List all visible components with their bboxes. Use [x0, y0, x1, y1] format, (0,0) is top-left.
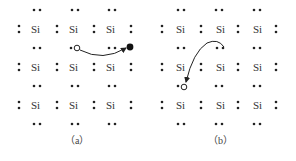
si-atom: Si	[31, 99, 40, 111]
si-atom: Si	[253, 61, 262, 73]
silicon-lattice-diagram: Si Si Si Si Si Si Si Si Si	[0, 0, 296, 161]
si-atoms-a: Si Si Si Si Si Si Si Si Si	[31, 23, 115, 111]
si-atom: Si	[69, 23, 78, 35]
si-atoms-b: Si Si Si Si Si Si Si Si Si	[176, 23, 262, 111]
si-atom: Si	[106, 61, 115, 73]
si-atom: Si	[106, 99, 115, 111]
si-atom: Si	[176, 61, 185, 73]
panel-b: Si Si Si Si Si Si Si Si Si	[161, 9, 278, 146]
caption-a: （a）	[65, 135, 89, 146]
hole-icon	[181, 84, 187, 90]
si-atom: Si	[176, 99, 185, 111]
si-atom: Si	[69, 61, 78, 73]
caption-b: （b）	[208, 135, 233, 146]
si-atom: Si	[216, 23, 225, 35]
panel-a: Si Si Si Si Si Si Si Si Si	[18, 9, 134, 146]
free-electron-icon	[127, 44, 134, 51]
si-atom: Si	[253, 23, 262, 35]
si-atom: Si	[31, 23, 40, 35]
si-atom: Si	[106, 23, 115, 35]
si-atom: Si	[216, 61, 225, 73]
si-atom: Si	[176, 23, 185, 35]
electron-motion-arrow-icon	[80, 48, 126, 56]
si-atom: Si	[31, 61, 40, 73]
si-atom: Si	[216, 99, 225, 111]
si-atom: Si	[69, 99, 78, 111]
hole-icon	[74, 45, 80, 51]
si-atom: Si	[253, 99, 262, 111]
